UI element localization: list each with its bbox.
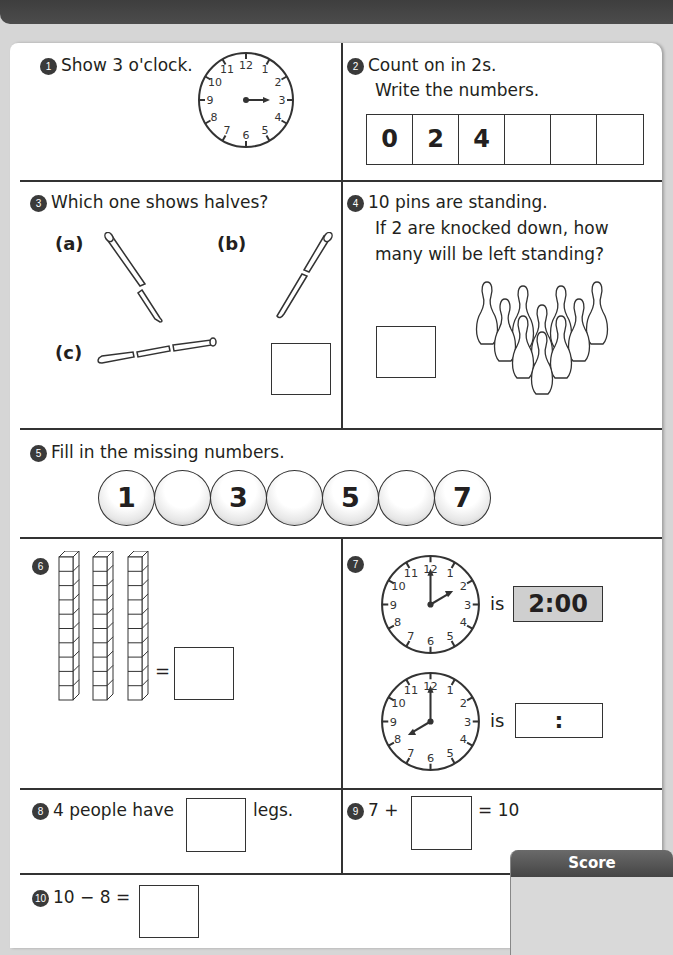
stick-c-icon: [96, 336, 221, 366]
svg-text:1: 1: [262, 63, 269, 76]
question-text: 7 +: [368, 800, 398, 820]
number-bead[interactable]: [378, 470, 435, 526]
question-number: 9: [347, 803, 364, 820]
question-text: Which one shows halves?: [51, 192, 268, 212]
question-text: many will be left standing?: [375, 242, 604, 267]
question-number: 3: [30, 195, 47, 212]
divider: [341, 43, 343, 428]
svg-text:5: 5: [446, 629, 453, 643]
number-bead[interactable]: [266, 470, 323, 526]
stick-a-icon: [100, 232, 170, 324]
stick-b-icon: [272, 232, 336, 324]
question-text: legs.: [253, 798, 293, 823]
is-label: is: [490, 593, 504, 614]
svg-text:9: 9: [390, 598, 397, 612]
is-label: is: [490, 710, 504, 731]
question-10: 1010 − 8 =: [32, 885, 130, 910]
divider: [20, 428, 662, 430]
digital-time-display: 2:00: [513, 586, 603, 622]
svg-text:10: 10: [208, 76, 222, 89]
divider: [20, 873, 510, 875]
question-number: 5: [30, 445, 47, 462]
clock-face-icon[interactable]: 12123 4567 891011: [196, 50, 296, 150]
svg-text:4: 4: [460, 615, 467, 629]
answer-box[interactable]: [139, 885, 199, 938]
svg-text:8: 8: [394, 732, 401, 746]
digital-time-input[interactable]: :: [515, 703, 603, 738]
sequence-cell[interactable]: [551, 115, 597, 164]
question-text: Write the numbers.: [375, 78, 539, 103]
question-text: 10 − 8 =: [53, 887, 130, 907]
svg-text:11: 11: [404, 683, 418, 697]
sequence-cell[interactable]: 4: [459, 115, 505, 164]
svg-text:11: 11: [220, 63, 234, 76]
option-c-label[interactable]: (c): [55, 342, 82, 363]
svg-text:12: 12: [239, 59, 253, 72]
count-sequence: 0 2 4: [366, 114, 644, 165]
svg-text:7: 7: [224, 124, 231, 137]
svg-text:10: 10: [391, 696, 405, 710]
question-number: 4: [347, 195, 364, 212]
number-bead[interactable]: 3: [210, 470, 267, 526]
svg-text:5: 5: [446, 746, 453, 760]
score-label: Score: [511, 850, 673, 877]
answer-box[interactable]: [186, 798, 246, 852]
option-b-label[interactable]: (b): [217, 233, 246, 254]
score-value-field[interactable]: [511, 877, 673, 955]
sequence-cell[interactable]: [597, 115, 643, 164]
svg-text:9: 9: [207, 94, 214, 107]
svg-text:5: 5: [262, 124, 269, 137]
tens-rods-icon: [58, 551, 153, 701]
bowling-pins-icon: [475, 280, 620, 415]
divider: [341, 537, 343, 873]
question-text: 4 people have: [53, 800, 174, 820]
svg-text:2: 2: [460, 579, 467, 593]
question-number: 10: [32, 890, 49, 907]
question-4: 410 pins are standing.: [347, 190, 548, 215]
svg-text:7: 7: [407, 746, 414, 760]
equals-sign: =: [155, 660, 170, 681]
question-5: 5Fill in the missing numbers.: [30, 440, 285, 465]
svg-text:11: 11: [404, 566, 418, 580]
answer-box[interactable]: [271, 343, 331, 395]
question-7: 7: [347, 554, 368, 573]
sequence-cell[interactable]: 2: [413, 115, 459, 164]
question-9: 97 +: [347, 798, 398, 823]
svg-text:6: 6: [427, 751, 434, 765]
svg-text:4: 4: [275, 111, 282, 124]
question-number: 1: [40, 58, 57, 75]
svg-text:6: 6: [427, 634, 434, 648]
svg-text:6: 6: [243, 129, 250, 142]
clock-2-oclock-icon: 12123 4567 891011: [379, 553, 482, 656]
question-6: 6: [32, 556, 53, 575]
svg-text:1: 1: [446, 566, 453, 580]
clock-8-oclock-icon: 12123 4567 891011: [379, 670, 482, 773]
svg-text:10: 10: [391, 579, 405, 593]
question-text: 10 pins are standing.: [368, 192, 548, 212]
answer-box[interactable]: [174, 647, 234, 700]
answer-box[interactable]: [376, 326, 436, 378]
svg-text:9: 9: [390, 715, 397, 729]
answer-box[interactable]: [411, 796, 472, 850]
header-band: [0, 0, 673, 24]
svg-text:3: 3: [464, 715, 471, 729]
question-3: 3Which one shows halves?: [30, 190, 268, 215]
question-2: 2Count on in 2s.: [347, 53, 496, 78]
svg-text:1: 1: [446, 683, 453, 697]
number-bead[interactable]: [154, 470, 211, 526]
number-bead[interactable]: 1: [98, 470, 155, 526]
question-number: 6: [32, 558, 49, 575]
question-8: 84 people have: [32, 798, 174, 823]
svg-text:7: 7: [407, 629, 414, 643]
number-bead[interactable]: 7: [434, 470, 491, 526]
svg-text:8: 8: [394, 615, 401, 629]
question-text: Show 3 o'clock.: [61, 55, 193, 75]
svg-text:8: 8: [211, 111, 218, 124]
sequence-cell[interactable]: 0: [367, 115, 413, 164]
question-1: 1Show 3 o'clock.: [40, 53, 193, 78]
option-a-label[interactable]: (a): [55, 233, 84, 254]
svg-text:4: 4: [460, 732, 467, 746]
sequence-cell[interactable]: [505, 115, 551, 164]
question-number: 8: [32, 803, 49, 820]
number-bead[interactable]: 5: [322, 470, 379, 526]
